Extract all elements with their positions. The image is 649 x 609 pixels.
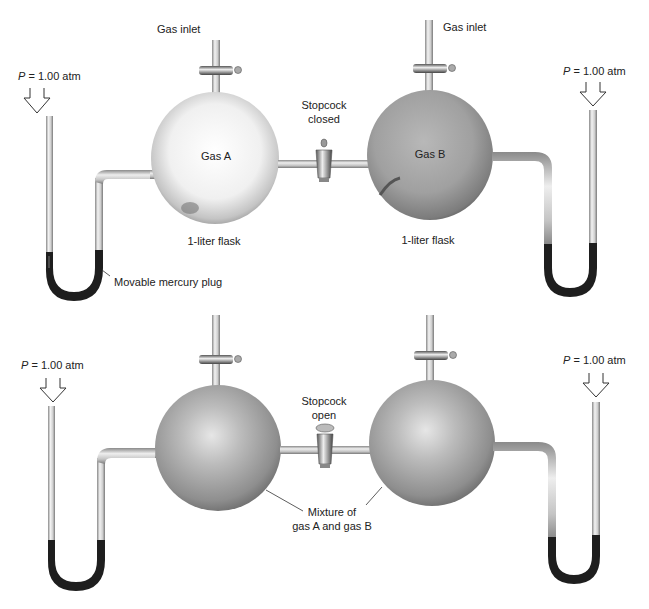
flask-b-label: Gas B bbox=[415, 147, 446, 161]
flask-b bbox=[367, 20, 493, 220]
right-manometer-bottom bbox=[493, 373, 609, 584]
mercury-plug bbox=[46, 250, 103, 301]
pressure-label-top-right: P = 1.00 atm bbox=[563, 64, 626, 78]
arrow-down-icon bbox=[583, 373, 609, 397]
gas-inlet-label-left: Gas inlet bbox=[157, 22, 200, 36]
mercury-plug bbox=[48, 540, 105, 591]
mercury-plug-label: Movable mercury plug bbox=[114, 275, 222, 289]
pressure-label-bottom-left: P = 1.00 atm bbox=[21, 358, 84, 372]
right-manometer-top bbox=[492, 82, 606, 297]
top-panel bbox=[24, 20, 606, 301]
flask-mixed-right bbox=[369, 315, 495, 506]
bottom-panel bbox=[40, 315, 609, 591]
mixture-label: Mixture ofgas A and gas B bbox=[292, 505, 372, 533]
flask-a-label: Gas A bbox=[201, 149, 231, 163]
pressure-label-top-left: P = 1.00 atm bbox=[18, 69, 81, 83]
stopcock-closed bbox=[278, 139, 372, 182]
left-manometer-top bbox=[24, 88, 150, 301]
stopcock-open bbox=[280, 424, 372, 468]
pressure-label-bottom-right: P = 1.00 atm bbox=[563, 353, 626, 367]
flask-a-caption: 1-liter flask bbox=[187, 234, 240, 248]
stopcock-closed-label: Stopcockclosed bbox=[301, 98, 346, 126]
flask-a bbox=[150, 40, 279, 224]
stopcock-open-label: Stopcockopen bbox=[301, 394, 346, 422]
mercury-plug bbox=[544, 243, 597, 297]
arrow-down-icon bbox=[24, 88, 50, 113]
gas-inlet-label-right: Gas inlet bbox=[443, 20, 486, 34]
flask-b-caption: 1-liter flask bbox=[401, 233, 454, 247]
arrow-down-icon bbox=[40, 378, 66, 402]
left-manometer-bottom bbox=[40, 378, 160, 591]
flask-mixed-left bbox=[155, 315, 281, 511]
mercury-plug bbox=[548, 535, 600, 584]
arrow-down-icon bbox=[580, 82, 606, 106]
